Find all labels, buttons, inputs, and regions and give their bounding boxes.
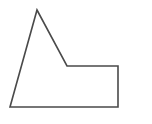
diagram-svg	[0, 0, 152, 124]
diagram-canvas	[0, 0, 152, 124]
pentagon-shape	[10, 10, 118, 107]
